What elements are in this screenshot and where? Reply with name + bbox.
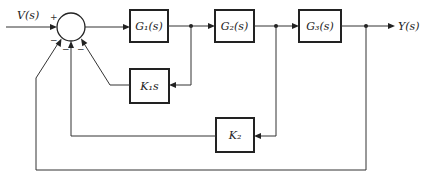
block-diagram: V(s) + − − − G₁(s) G₂(s) G₃(s) Y(s) K₁s …	[0, 0, 430, 180]
block-g3-label: G₃(s)	[306, 20, 333, 33]
input-arrow-icon	[50, 24, 57, 30]
block-k1s-label: K₁s	[139, 80, 159, 93]
input-label: V(s)	[17, 9, 39, 22]
block-g1-label: G₁(s)	[135, 20, 162, 33]
summing-junction	[57, 13, 85, 41]
sign-input: +	[50, 12, 58, 22]
output-label: Y(s)	[398, 20, 420, 33]
sign-k2-feedback: −	[62, 44, 70, 54]
block-g2-label: G₂(s)	[221, 20, 248, 33]
block-k2-label: K₂	[228, 129, 242, 142]
